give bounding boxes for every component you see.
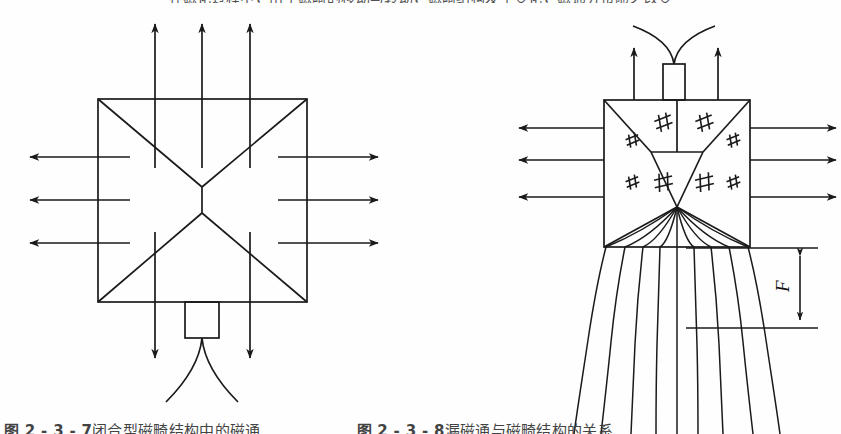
clipped-bottom-caption: 图 2 - 3 - 7闭合型磁畸结构中的磁通图 2 - 3 - 8漏磁通与磁畸结…	[0, 419, 841, 434]
hash-icon	[653, 172, 675, 193]
caption-label-left: 图 2 - 3 - 7	[4, 419, 92, 434]
flux-line	[677, 207, 698, 434]
right-stub-rect	[663, 64, 685, 100]
left-diagram-closed-domain	[30, 24, 378, 402]
leak-curve	[633, 26, 674, 64]
hash-icon	[624, 174, 641, 191]
figure-canvas: F	[0, 0, 841, 434]
hash-icon	[694, 172, 716, 193]
flux-line	[574, 207, 677, 434]
right-diagram-left-arrows	[519, 128, 604, 197]
flux-line	[656, 207, 677, 434]
domain-wall	[703, 100, 750, 152]
right-diagram-leakage-flux: F	[519, 26, 836, 434]
right-flux-lines	[574, 207, 780, 434]
hash-icon	[624, 132, 641, 149]
domain-wall	[202, 213, 307, 302]
left-diagram-left-arrows	[30, 157, 130, 243]
left-stub-rect	[185, 302, 219, 338]
figure-page: 在磁化过程中，由于磁畸的移动与转动，磁畸结构发生变化，磁通分布随之改变	[0, 0, 841, 434]
hash-icon	[725, 174, 742, 191]
left-leak-curves	[166, 338, 238, 402]
leak-curve	[202, 338, 238, 402]
right-diagram-right-arrows	[750, 128, 836, 197]
right-top-leak-curves	[633, 26, 715, 64]
leak-curve	[674, 26, 715, 64]
caption-text-left: 闭合型磁畸结构中的磁通	[92, 419, 260, 434]
hash-icon	[725, 132, 742, 149]
dimension-F	[686, 248, 818, 328]
left-diagram-right-arrows	[278, 157, 378, 243]
caption-label-right: 图 2 - 3 - 8	[357, 419, 445, 434]
caption-text-right: 漏磁通与磁畸结构的关系	[445, 419, 613, 434]
domain-wall	[98, 99, 202, 187]
hash-icon	[693, 111, 715, 133]
left-diagram-up-arrows	[155, 24, 250, 168]
flux-line	[677, 207, 780, 434]
domain-wall	[202, 99, 307, 187]
leak-curve	[166, 338, 202, 402]
hash-icon	[652, 111, 674, 133]
dimension-label-F: F	[772, 280, 793, 293]
domain-wall	[98, 213, 202, 302]
